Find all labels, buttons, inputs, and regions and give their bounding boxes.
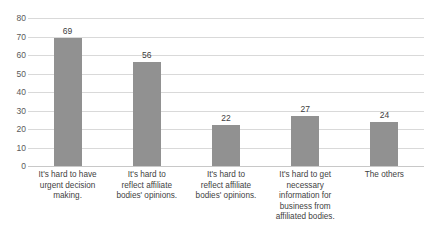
x-axis-category-labels: It's hard to have urgent decision making… <box>28 170 424 242</box>
y-tick-label: 40 <box>0 88 26 96</box>
y-tick-label: 30 <box>0 107 26 115</box>
bar <box>291 116 319 166</box>
bar <box>212 125 240 166</box>
bar <box>54 38 82 166</box>
bar-value-label: 56 <box>142 50 151 60</box>
bar-slot: 69 <box>28 18 107 166</box>
x-axis-category-label: The others <box>342 170 427 181</box>
x-axis-category-label: It's hard to reflect affiliate bodies' o… <box>104 170 189 202</box>
y-tick-label: 10 <box>0 144 26 152</box>
bar-slot: 24 <box>345 18 424 166</box>
bar-value-label: 27 <box>300 104 309 114</box>
bar-slot: 22 <box>186 18 265 166</box>
bar-slot: 27 <box>266 18 345 166</box>
y-tick-label: 80 <box>0 14 26 22</box>
bar <box>133 62 161 166</box>
bars-group: 6956222724 <box>28 18 424 166</box>
y-tick-label: 60 <box>0 51 26 59</box>
bar-value-label: 24 <box>380 110 389 120</box>
bar-value-label: 69 <box>63 26 72 36</box>
bar <box>370 122 398 166</box>
plot-area: 6956222724 <box>28 18 424 166</box>
bar-slot: 56 <box>107 18 186 166</box>
axis-baseline <box>28 166 424 167</box>
x-axis-category-label: It's hard to have urgent decision making… <box>25 170 110 202</box>
y-tick-label: 70 <box>0 33 26 41</box>
y-tick-label: 20 <box>0 125 26 133</box>
bar-value-label: 22 <box>221 113 230 123</box>
x-axis-category-label: It's hard to get necessary information f… <box>263 170 348 223</box>
x-axis-category-label: It's hard to reflect affiliate bodies' o… <box>183 170 268 202</box>
bar-chart: 80706050403020100 6956222724 It's hard t… <box>0 0 431 242</box>
y-tick-label: 0 <box>0 162 26 170</box>
y-axis: 80706050403020100 <box>0 0 26 242</box>
y-tick-label: 50 <box>0 70 26 78</box>
